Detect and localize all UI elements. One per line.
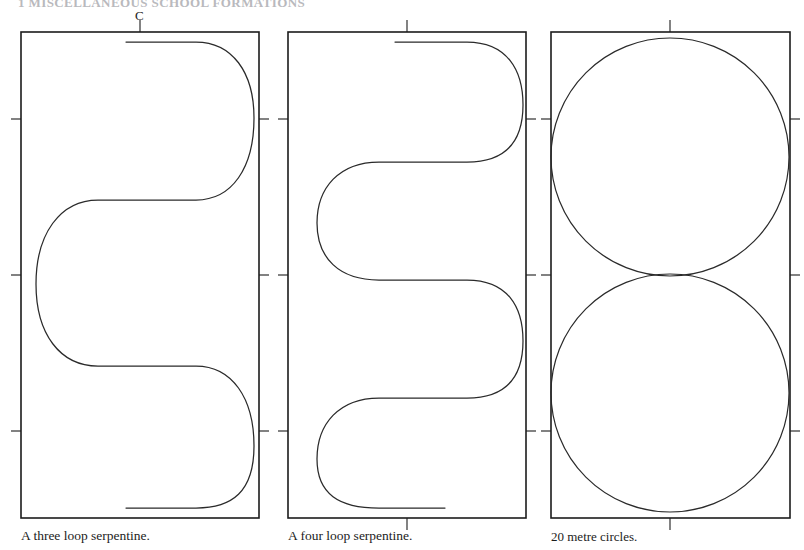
caption-three-loop-serpentine: A three loop serpentine. (21, 529, 150, 544)
figure-four-loop-serpentine (267, 0, 567, 540)
serpentine-track-path (317, 42, 523, 508)
three-loop-serpentine-diagram (0, 0, 300, 540)
arena-outline (551, 32, 790, 518)
figure-twenty-metre-circles (530, 0, 804, 540)
circle-upper-20m (551, 38, 789, 276)
figure-page: 1 MISCELLANEOUS SCHOOL FORMATIONS C (0, 0, 804, 550)
arena-outline (21, 32, 259, 518)
figure-three-loop-serpentine: C (0, 0, 300, 540)
twenty-metre-circles-diagram (530, 0, 804, 540)
caption-four-loop-serpentine: A four loop serpentine. (288, 529, 412, 544)
caption-twenty-metre-circles: 20 metre circles. (551, 530, 637, 544)
circle-lower-20m (551, 274, 789, 512)
serpentine-track-path (36, 42, 254, 508)
arena-marker-c: C (135, 9, 144, 22)
arena-outline (288, 32, 526, 518)
four-loop-serpentine-diagram (267, 0, 567, 540)
